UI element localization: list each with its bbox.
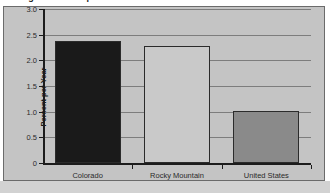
bar bbox=[55, 41, 121, 163]
y-tick-label: 2.0 bbox=[27, 56, 37, 65]
x-axis-category-label: United States bbox=[244, 171, 289, 180]
chart-title: Average Annual Population bbox=[3, 0, 122, 2]
chart-figure: Average Annual Population Percent per Ye… bbox=[0, 0, 330, 193]
y-axis-line bbox=[43, 9, 45, 165]
x-tick-mark bbox=[132, 165, 133, 169]
x-axis-category-label: Rocky Mountain bbox=[150, 171, 204, 180]
x-axis-line bbox=[43, 163, 311, 165]
figure-footer-margin bbox=[0, 181, 330, 193]
gridline bbox=[43, 35, 311, 36]
x-tick-mark bbox=[222, 165, 223, 169]
x-axis-category-label: Colorado bbox=[72, 171, 102, 180]
gridline bbox=[43, 9, 311, 10]
bar bbox=[144, 46, 210, 163]
bar bbox=[233, 111, 299, 163]
y-tick-label: 0.5 bbox=[27, 133, 37, 142]
y-tick-label: 1.0 bbox=[27, 107, 37, 116]
y-tick-label: 3.0 bbox=[27, 5, 37, 14]
y-tick-label: 0 bbox=[33, 159, 37, 168]
y-tick-label: 2.5 bbox=[27, 30, 37, 39]
y-tick-label: 1.5 bbox=[27, 82, 37, 91]
x-tick-mark bbox=[311, 165, 312, 169]
plot-area: 00.51.01.52.02.53.0 ColoradoRocky Mounta… bbox=[43, 9, 311, 164]
